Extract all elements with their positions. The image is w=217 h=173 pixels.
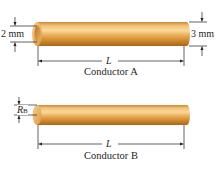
length-label-a: L <box>106 56 112 66</box>
radius-subscript: B <box>23 107 28 115</box>
outer-diameter-label: 3 mm <box>191 29 214 39</box>
conductor-b-cylinder <box>33 105 191 125</box>
conductor-b-caption: Conductor B <box>84 151 138 162</box>
radius-label-b: RB <box>17 105 28 115</box>
inner-diameter-label: 2 mm <box>1 29 24 39</box>
conductor-a-caption: Conductor A <box>84 67 138 78</box>
conductor-a-tube <box>32 22 190 46</box>
length-label-b: L <box>106 139 112 149</box>
